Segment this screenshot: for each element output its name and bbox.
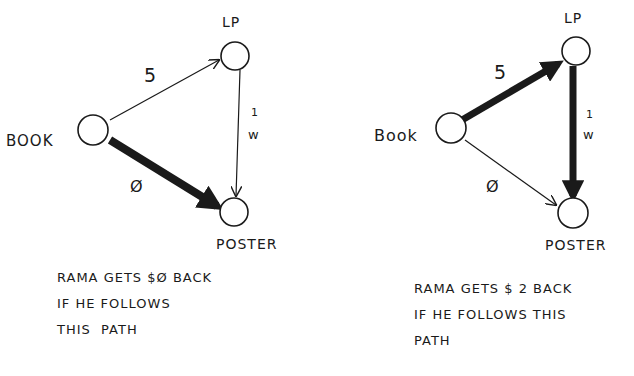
left-caption-line-3: THIS PATH bbox=[57, 317, 212, 343]
node-label-book: Book bbox=[374, 126, 418, 145]
edge-book-poster bbox=[465, 140, 556, 205]
edge-weight-book-poster: Ø bbox=[130, 177, 144, 196]
node-lp bbox=[221, 42, 249, 70]
node-book bbox=[78, 115, 108, 145]
node-poster bbox=[220, 198, 248, 226]
edge-book-lp-highlighted bbox=[462, 64, 558, 120]
left-caption-line-2: IF HE FOLLOWS bbox=[57, 291, 212, 317]
node-label-lp: LP bbox=[222, 14, 240, 30]
left-caption-line-1: RAMA GETS $Ø BACK bbox=[57, 265, 212, 291]
right-caption: RAMA GETS $ 2 BACK IF HE FOLLOWS THIS PA… bbox=[414, 276, 572, 354]
weight-mark-icon: w bbox=[248, 127, 260, 142]
node-label-poster: POSTER bbox=[216, 236, 277, 252]
edge-weight-lp-poster: 1 bbox=[586, 108, 594, 121]
edge-weight-book-poster: Ø bbox=[486, 177, 500, 196]
edge-lp-poster bbox=[236, 70, 240, 196]
node-label-lp: LP bbox=[564, 10, 582, 26]
edge-book-lp bbox=[110, 60, 219, 120]
node-book bbox=[436, 113, 466, 143]
edge-weight-lp-poster: 1 bbox=[251, 106, 259, 119]
right-caption-line-2: IF HE FOLLOWS THIS bbox=[414, 302, 572, 328]
left-graph: BOOK LP POSTER 5 1 w Ø bbox=[6, 14, 277, 252]
node-poster bbox=[558, 198, 588, 228]
weight-mark-icon: w bbox=[583, 127, 595, 142]
edge-book-poster-highlighted bbox=[110, 140, 217, 206]
node-lp bbox=[562, 37, 590, 65]
edge-weight-book-lp: 5 bbox=[494, 61, 507, 83]
right-caption-line-3: PATH bbox=[414, 328, 572, 354]
node-label-book: BOOK bbox=[6, 132, 54, 150]
node-label-poster: POSTER bbox=[545, 237, 606, 253]
left-caption: RAMA GETS $Ø BACK IF HE FOLLOWS THIS PAT… bbox=[57, 265, 212, 343]
right-graph: Book LP POSTER 5 1 w Ø bbox=[374, 10, 606, 253]
right-caption-line-1: RAMA GETS $ 2 BACK bbox=[414, 276, 572, 302]
edge-weight-book-lp: 5 bbox=[144, 64, 157, 86]
